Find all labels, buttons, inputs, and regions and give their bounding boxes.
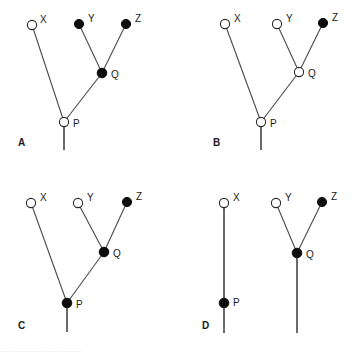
branch-q-y [79, 24, 102, 73]
node-z [318, 18, 327, 27]
branch-p-q [67, 252, 104, 303]
branch-q-z [297, 202, 322, 253]
node-label-y: Y [88, 13, 95, 24]
node-q [292, 248, 302, 258]
panel-d: X P Y Z Q D [202, 191, 337, 333]
branch-p-x [32, 25, 64, 122]
node-label-x: X [40, 14, 47, 25]
node-label-p: P [233, 297, 240, 308]
phylogeny-figure: X Y Z Q P A X Y Z Q P B [0, 0, 357, 353]
node-label-y: Y [286, 13, 293, 24]
node-label-q: Q [111, 69, 119, 80]
node-label-z: Z [136, 191, 142, 202]
branch-p-x [31, 203, 67, 303]
panel-d-left-lineage: X P [219, 192, 240, 333]
panel-c: X Y Z Q P C [18, 191, 142, 332]
node-x [26, 198, 35, 207]
node-x [219, 198, 228, 207]
branch-q-z [104, 202, 127, 252]
node-q [97, 68, 107, 78]
branch-q-z [299, 23, 323, 72]
node-x [27, 20, 36, 29]
node-label-p: P [270, 118, 277, 129]
node-x [220, 19, 229, 28]
branch-p-q [261, 72, 299, 122]
node-z [122, 197, 131, 206]
branch-q-z [102, 24, 126, 73]
node-y [73, 198, 82, 207]
node-p [219, 298, 229, 308]
node-z [121, 19, 130, 28]
panel-label-c: C [18, 320, 25, 331]
node-y [271, 198, 280, 207]
panel-label-a: A [18, 137, 25, 148]
node-label-z: Z [135, 13, 141, 24]
node-p [62, 298, 72, 308]
branch-q-y [277, 24, 299, 72]
clipped-caption: ............................. [0, 345, 357, 353]
node-y [74, 19, 83, 28]
node-label-p: P [76, 299, 83, 310]
panel-b-branches [225, 23, 323, 150]
branch-q-y [276, 203, 297, 253]
node-label-q: Q [113, 248, 121, 259]
node-label-y: Y [285, 192, 292, 203]
node-label-x: X [233, 192, 240, 203]
node-p [256, 117, 265, 126]
node-q [294, 67, 303, 76]
panel-a-branches [32, 24, 126, 150]
node-label-x: X [234, 13, 241, 24]
branch-p-x [225, 24, 261, 122]
panel-b: X Y Z Q P B [213, 12, 338, 150]
node-q [99, 247, 109, 257]
panel-label-d: D [202, 320, 209, 331]
node-label-p: P [73, 118, 80, 129]
node-z [317, 197, 326, 206]
node-label-z: Z [331, 191, 337, 202]
node-y [272, 19, 281, 28]
panel-label-b: B [213, 137, 220, 148]
panel-a: X Y Z Q P A [18, 13, 141, 150]
node-p [59, 117, 68, 126]
panel-c-branches [31, 202, 127, 332]
panel-d-right-lineage: Y Z Q [271, 191, 337, 333]
branch-q-y [78, 203, 104, 252]
node-label-x: X [40, 192, 47, 203]
node-label-q: Q [306, 249, 314, 260]
node-label-y: Y [87, 192, 94, 203]
node-label-q: Q [308, 68, 316, 79]
branch-p-q [64, 73, 102, 122]
node-label-z: Z [332, 12, 338, 23]
